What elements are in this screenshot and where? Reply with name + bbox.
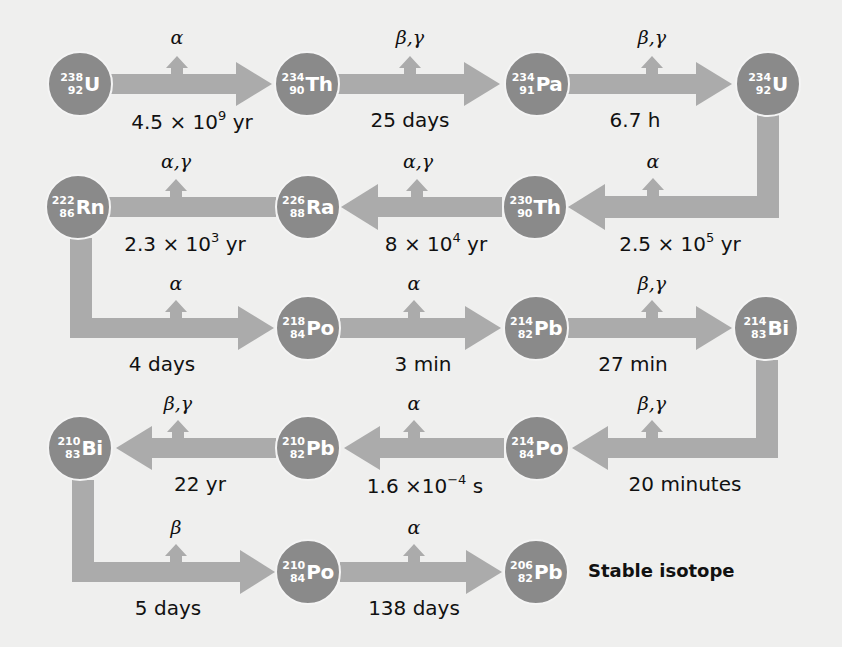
nuclide-numbers: 21483 xyxy=(743,316,766,340)
atomic-number: 92 xyxy=(68,85,83,96)
atomic-number: 82 xyxy=(518,329,533,340)
mass-number: 210 xyxy=(282,560,305,571)
nuclide-Bi210: 21083Bi xyxy=(47,415,113,481)
nuclide-numbers: 22688 xyxy=(282,195,305,219)
half-life-base: 20 minutes xyxy=(629,472,742,496)
mass-number: 210 xyxy=(282,436,305,447)
emission-label: β,γ xyxy=(164,392,192,414)
atomic-number: 88 xyxy=(290,208,305,219)
emission-label: α xyxy=(408,516,421,538)
mass-number: 234 xyxy=(282,72,305,83)
half-life-label: 138 days xyxy=(368,596,460,620)
nuclide-numbers: 23491 xyxy=(512,72,535,96)
half-life-base: 22 yr xyxy=(174,472,226,496)
element-symbol: Rn xyxy=(76,195,105,219)
half-life-exponent: 4 xyxy=(452,230,460,245)
nuclide-numbers: 21884 xyxy=(282,316,305,340)
nuclide-Th234: 23490Th xyxy=(274,51,340,117)
decay-chain-arrows xyxy=(0,0,842,647)
half-life-base: 2.5 × 10 xyxy=(619,232,706,256)
emission-label: α xyxy=(171,26,184,48)
element-symbol: Po xyxy=(535,436,562,460)
mass-number: 238 xyxy=(60,72,83,83)
half-life-unit: yr xyxy=(219,232,245,256)
nuclide-Po218: 21884Po xyxy=(275,295,341,361)
half-life-label: 3 min xyxy=(395,352,452,376)
mass-number: 214 xyxy=(510,316,533,327)
half-life-base: 4.5 × 10 xyxy=(131,110,218,134)
half-life-label: 1.6 ×10−4 s xyxy=(367,472,483,498)
emission-label: α xyxy=(647,150,660,172)
half-life-label: 2.5 × 105 yr xyxy=(619,230,740,256)
mass-number: 234 xyxy=(512,72,535,83)
half-life-label: 22 yr xyxy=(174,472,226,496)
atomic-number: 84 xyxy=(519,449,534,460)
mass-number: 214 xyxy=(743,316,766,327)
emission-label: α xyxy=(408,392,421,414)
mass-number: 226 xyxy=(282,195,305,206)
half-life-base: 2.3 × 10 xyxy=(124,232,211,256)
element-symbol: U xyxy=(772,72,788,96)
nuclide-numbers: 21482 xyxy=(510,316,533,340)
nuclide-Po210: 21084Po xyxy=(275,539,341,605)
nuclide-Bi214: 21483Bi xyxy=(733,295,799,361)
half-life-base: 6.7 h xyxy=(610,108,661,132)
emission-label: β xyxy=(171,516,182,538)
emission-label: β,γ xyxy=(638,392,666,414)
atomic-number: 82 xyxy=(518,573,533,584)
half-life-exponent: 5 xyxy=(706,230,714,245)
emission-label: β,γ xyxy=(638,26,666,48)
atomic-number: 92 xyxy=(756,85,771,96)
nuclide-U234: 23492U xyxy=(735,51,801,117)
emission-label: β,γ xyxy=(638,272,666,294)
nuclide-Pa234: 23491Pa xyxy=(504,51,570,117)
nuclide-Pb214: 21482Pb xyxy=(503,295,569,361)
element-symbol: Ra xyxy=(306,195,334,219)
nuclide-numbers: 22286 xyxy=(52,195,75,219)
nuclide-numbers: 20682 xyxy=(510,560,533,584)
half-life-label: 8 × 104 yr xyxy=(385,230,487,256)
element-symbol: Th xyxy=(306,72,333,96)
element-symbol: Po xyxy=(306,560,333,584)
mass-number: 206 xyxy=(510,560,533,571)
atomic-number: 83 xyxy=(65,449,80,460)
nuclide-numbers: 23492 xyxy=(748,72,771,96)
atomic-number: 90 xyxy=(517,208,532,219)
atomic-number: 83 xyxy=(751,329,766,340)
nuclide-Pb210: 21082Pb xyxy=(275,415,341,481)
nuclide-numbers: 23892 xyxy=(60,72,83,96)
half-life-unit: yr xyxy=(461,232,487,256)
half-life-base: 4 days xyxy=(129,352,195,376)
half-life-label: 25 days xyxy=(370,108,449,132)
mass-number: 234 xyxy=(748,72,771,83)
nuclide-numbers: 21084 xyxy=(282,560,305,584)
mass-number: 230 xyxy=(510,195,533,206)
nuclide-U238: 23892U xyxy=(47,51,113,117)
emission-label: α xyxy=(170,272,183,294)
half-life-unit: yr xyxy=(714,232,740,256)
nuclide-Po214: 21484Po xyxy=(504,415,570,481)
half-life-base: 27 min xyxy=(598,352,668,376)
element-symbol: Pb xyxy=(534,316,562,340)
element-symbol: Th xyxy=(534,195,561,219)
half-life-base: 1.6 ×10 xyxy=(367,474,447,498)
half-life-label: 5 days xyxy=(135,596,201,620)
element-symbol: Po xyxy=(306,316,333,340)
element-symbol: Pb xyxy=(534,560,562,584)
nuclide-numbers: 23490 xyxy=(282,72,305,96)
emission-label: β,γ xyxy=(396,26,424,48)
mass-number: 210 xyxy=(57,436,80,447)
nuclide-numbers: 21083 xyxy=(57,436,80,460)
mass-number: 214 xyxy=(511,436,534,447)
half-life-base: 5 days xyxy=(135,596,201,620)
half-life-exponent: 9 xyxy=(218,108,226,123)
half-life-unit: yr xyxy=(226,110,252,134)
half-life-base: 3 min xyxy=(395,352,452,376)
atomic-number: 91 xyxy=(519,85,534,96)
half-life-unit: s xyxy=(466,474,483,498)
atomic-number: 84 xyxy=(290,573,305,584)
atomic-number: 82 xyxy=(290,449,305,460)
atomic-number: 90 xyxy=(289,85,304,96)
atomic-number: 84 xyxy=(290,329,305,340)
half-life-base: 25 days xyxy=(370,108,449,132)
